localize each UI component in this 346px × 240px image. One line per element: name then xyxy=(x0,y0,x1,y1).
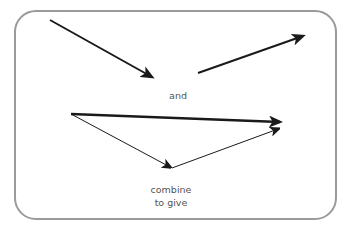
vector-b-arrow xyxy=(198,36,303,73)
combine-label: combine to give xyxy=(141,183,201,209)
vector-a-placed-arrow xyxy=(71,114,170,167)
vector-b-placed-arrow xyxy=(172,129,278,168)
resultant-arrow xyxy=(71,114,280,122)
combine-label-line1: combine xyxy=(141,183,201,196)
and-label: and xyxy=(163,89,193,102)
vector-a-arrow xyxy=(50,20,152,77)
combine-label-line2: to give xyxy=(141,196,201,209)
